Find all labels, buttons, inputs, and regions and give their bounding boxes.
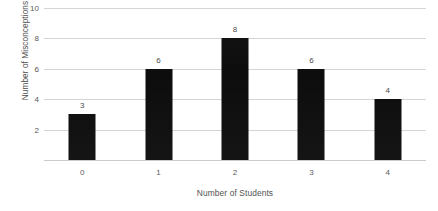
bar [298, 69, 325, 160]
x-axis-tick-label: 4 [386, 168, 390, 177]
bar [374, 99, 401, 160]
bar-value-label: 3 [80, 101, 84, 110]
bar-value-label: 6 [309, 56, 313, 65]
bar-value-label: 4 [386, 86, 390, 95]
bar-group: 44 [350, 8, 426, 160]
y-axis-tick-label: 4 [35, 95, 39, 104]
bar-chart-figure: Number of Misconceptions 246810 30618263… [0, 0, 438, 211]
bar [221, 38, 248, 160]
bar-group: 30 [44, 8, 120, 160]
y-axis-title: Number of Misconceptions [21, 0, 30, 131]
y-axis-tick-label: 2 [35, 125, 39, 134]
x-axis-tick-label: 1 [156, 168, 160, 177]
bar [69, 114, 96, 160]
x-axis-tick-label: 2 [233, 168, 237, 177]
bar [145, 69, 172, 160]
bar-group: 63 [273, 8, 349, 160]
x-axis-tick-label: 0 [80, 168, 84, 177]
bar-value-label: 6 [156, 56, 160, 65]
plot-area: 246810 3061826344 [44, 8, 426, 160]
x-axis-tick-label: 3 [309, 168, 313, 177]
bar-group: 61 [120, 8, 196, 160]
axis-baseline [44, 160, 426, 161]
y-axis-tick-label: 10 [30, 4, 39, 13]
y-axis-tick-label: 6 [35, 64, 39, 73]
bars-layer: 3061826344 [44, 8, 426, 160]
y-axis-tick-label: 8 [35, 34, 39, 43]
bar-value-label: 8 [233, 25, 237, 34]
bar-group: 82 [197, 8, 273, 160]
x-axis-title: Number of Students [40, 188, 430, 198]
